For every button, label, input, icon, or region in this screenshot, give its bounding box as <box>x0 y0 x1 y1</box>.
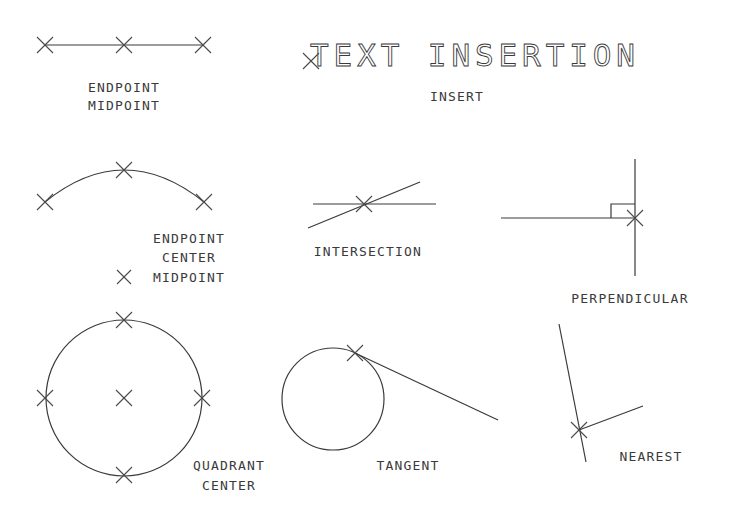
perpendicular-example: PERPENDICULAR <box>501 159 689 306</box>
diagonal-line <box>308 182 420 228</box>
arc-example: ENDPOINT CENTER MIDPOINT <box>37 162 225 285</box>
tangent-example: TANGENT <box>282 345 498 473</box>
label-nearest: NEAREST <box>619 449 682 464</box>
arc-curve <box>45 170 204 202</box>
tangent-marker-icon <box>347 345 363 361</box>
arc-center-marker-icon <box>117 270 131 284</box>
quadrant-left-marker-icon <box>37 390 53 406</box>
right-angle-symbol <box>611 204 635 218</box>
label-endpoint: ENDPOINT <box>153 231 225 246</box>
nearest-example: NEAREST <box>559 324 683 464</box>
label-midpoint: MIDPOINT <box>153 270 225 285</box>
label-tangent: TANGENT <box>376 458 439 473</box>
snap-line <box>579 406 643 430</box>
circle-center-marker-icon <box>116 390 132 406</box>
line-endpoint-midpoint-example: ENDPOINT MIDPOINT <box>37 37 211 113</box>
label-perpendicular: PERPENDICULAR <box>571 291 688 306</box>
quadrant-bottom-marker-icon <box>116 467 132 483</box>
intersection-example: INTERSECTION <box>308 182 436 259</box>
circle-quadrant-example: QUADRANT CENTER <box>37 312 265 493</box>
text-insertion-example: TEXT INSERTION INSERT <box>303 37 640 104</box>
label-quadrant: QUADRANT <box>193 458 265 473</box>
label-intersection: INTERSECTION <box>314 244 422 259</box>
arc-endpoint-marker-icon <box>37 194 53 210</box>
label-insert: INSERT <box>430 89 484 104</box>
label-endpoint: ENDPOINT <box>88 80 160 95</box>
tangent-line <box>355 353 498 420</box>
sample-text-insertion: TEXT INSERTION <box>310 37 640 73</box>
label-center: CENTER <box>162 250 216 265</box>
label-center: CENTER <box>202 478 256 493</box>
reference-line <box>559 324 586 462</box>
osnap-diagram: ENDPOINT MIDPOINT TEXT INSERTION INSERT … <box>0 0 747 514</box>
label-midpoint: MIDPOINT <box>88 98 160 113</box>
arc-endpoint-marker-icon <box>196 194 212 210</box>
tangent-circle <box>282 348 384 450</box>
